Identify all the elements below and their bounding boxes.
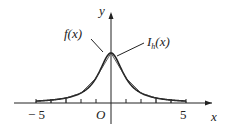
y-axis-arrow-icon [109, 12, 114, 19]
origin-label: O [96, 107, 106, 122]
fx-leader-line [91, 39, 103, 52]
y-axis-label: y [97, 3, 105, 18]
x-axis-arrow-icon [205, 101, 212, 106]
ih-annotation-label: Ih(x) [146, 34, 170, 51]
x-axis-label: x [210, 109, 217, 124]
x-tick-label-5: 5 [180, 107, 187, 122]
fx-annotation-label: f(x) [64, 26, 82, 41]
x-tick-label-neg5: − 5 [28, 107, 45, 122]
labels: y x O − 5 5 f(x) Ih(x) [28, 3, 217, 124]
chart: y x O − 5 5 f(x) Ih(x) [0, 0, 229, 137]
ih-leader-line [117, 43, 144, 56]
